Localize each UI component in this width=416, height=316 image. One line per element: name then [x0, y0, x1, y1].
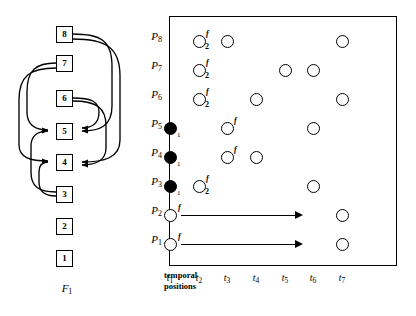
arrow-head-icon — [295, 211, 303, 219]
col-label-sub: 4 — [256, 276, 260, 285]
marker-sub-p5-t1: 1 — [177, 131, 181, 139]
marker-sub-p8-t2: 2 — [205, 43, 209, 51]
point-p7-t5[interactable] — [279, 64, 292, 77]
col-label-sub: 5 — [285, 276, 289, 285]
chart-plot-area: f 2 f 2 f 2 1 f 1 f — [169, 16, 397, 266]
point-p2-t7[interactable] — [336, 209, 349, 222]
marker-sub-p4-t1: 1 — [177, 160, 181, 168]
point-p1-t1[interactable] — [164, 238, 177, 251]
col-label-t3: t3 — [215, 272, 239, 285]
marker-f-p3-t2: f — [206, 175, 209, 183]
node-box-4[interactable]: 4 — [56, 154, 73, 171]
dependency-arrows — [0, 0, 165, 316]
marker-sub-p6-t2: 2 — [205, 101, 209, 109]
figure-root: 8 7 6 5 4 3 2 1 F1 P8 P7 P6 P5 P4 P3 P2 … — [0, 0, 416, 316]
marker-sub-p3-t2: 2 — [205, 188, 209, 196]
point-p8-t3[interactable] — [221, 35, 234, 48]
point-p5-t3[interactable] — [221, 122, 234, 135]
caption-line-2: positions — [164, 281, 214, 292]
node-box-5[interactable]: 5 — [56, 123, 73, 140]
arrow-shaft — [181, 215, 295, 216]
arrow-shaft — [181, 244, 295, 245]
col-label-t4: t4 — [244, 272, 268, 285]
node-box-7[interactable]: 7 — [56, 55, 73, 72]
marker-sub-p7-t2: 2 — [205, 72, 209, 80]
col-label-sub: 6 — [313, 276, 317, 285]
temporal-chart-panel: P8 P7 P6 P5 P4 P3 P2 P1 f 2 f 2 f 2 — [165, 0, 416, 316]
point-p5-t1[interactable] — [164, 122, 177, 135]
point-p3-t6[interactable] — [307, 180, 320, 193]
point-p4-t3[interactable] — [221, 151, 234, 164]
point-p6-t7[interactable] — [336, 93, 349, 106]
marker-sub-p3-t1: 1 — [177, 189, 181, 197]
point-p3-t1[interactable] — [164, 180, 177, 193]
col-label-t5: t5 — [273, 272, 297, 285]
temporal-positions-caption: temporal positions — [164, 270, 214, 292]
timeline-arrow-p2 — [181, 211, 303, 220]
point-p4-t4[interactable] — [250, 151, 263, 164]
point-p4-t1[interactable] — [164, 151, 177, 164]
point-p6-t4[interactable] — [250, 93, 263, 106]
marker-f-p7-t2: f — [206, 59, 209, 67]
point-p1-t7[interactable] — [336, 238, 349, 251]
node-box-3[interactable]: 3 — [56, 186, 73, 203]
timeline-arrow-p1 — [181, 240, 303, 249]
node-box-1[interactable]: 1 — [56, 250, 73, 267]
col-label-t7: t7 — [330, 272, 354, 285]
col-label-sub: 3 — [227, 276, 231, 285]
point-p7-t6[interactable] — [307, 64, 320, 77]
point-p2-t1[interactable] — [164, 209, 177, 222]
arrow-head-icon — [295, 240, 303, 248]
marker-f-p4-t3: f — [234, 146, 237, 154]
marker-f-p8-t2: f — [206, 30, 209, 38]
caption-line-1: temporal — [164, 270, 214, 281]
col-label-t6: t6 — [301, 272, 325, 285]
marker-f-p5-t3: f — [234, 117, 237, 125]
node-box-6[interactable]: 6 — [56, 90, 73, 107]
node-box-8[interactable]: 8 — [56, 26, 73, 43]
point-p8-t7[interactable] — [336, 35, 349, 48]
node-box-2[interactable]: 2 — [56, 218, 73, 235]
dependency-graph-panel: 8 7 6 5 4 3 2 1 F1 — [0, 0, 165, 316]
col-label-sub: 7 — [342, 276, 346, 285]
point-p5-t6[interactable] — [307, 122, 320, 135]
marker-f-p6-t2: f — [206, 88, 209, 96]
